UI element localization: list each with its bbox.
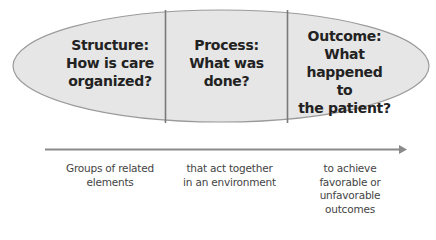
segment-process-title: Process: (170, 36, 283, 54)
segment-outcome-line-3: happened to (297, 63, 392, 99)
segment-structure-line-3: organized? (55, 72, 165, 90)
segment-outcome-line-2: What (297, 45, 392, 63)
segment-structure-title: Structure: (55, 36, 165, 54)
caption-act-together: that act together in an environment (172, 162, 287, 189)
caption-groups-line-1: Groups of related (55, 162, 165, 176)
caption-achieve-line-2: favorable or (305, 176, 395, 190)
segment-process: Process: What was done? (170, 36, 283, 90)
segment-structure-line-2: How is care (55, 54, 165, 72)
caption-achieve-line-1: to achieve (305, 162, 395, 176)
caption-achieve-line-3: unfavorable (305, 189, 395, 203)
segment-process-line-3: done? (170, 72, 283, 90)
caption-groups: Groups of related elements (55, 162, 165, 189)
segment-process-line-2: What was (170, 54, 283, 72)
segment-structure: Structure: How is care organized? (55, 36, 165, 90)
caption-achieve-line-4: outcomes (305, 203, 395, 217)
arrow-head-icon (399, 145, 407, 154)
segment-outcome-line-4: the patient? (297, 99, 392, 117)
caption-act-together-line-1: that act together (172, 162, 287, 176)
caption-groups-line-2: elements (55, 176, 165, 190)
caption-achieve: to achieve favorable or unfavorable outc… (305, 162, 395, 216)
segment-outcome: Outcome: What happened to the patient? (297, 27, 392, 117)
segment-outcome-title: Outcome: (297, 27, 392, 45)
caption-act-together-line-2: in an environment (172, 176, 287, 190)
